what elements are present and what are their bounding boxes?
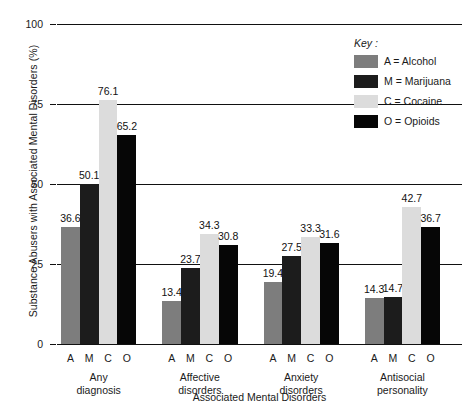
bar-value-label: 30.8 (213, 231, 244, 242)
bar-value-label: 42.7 (396, 193, 427, 204)
y-tick-label-50: 50 (9, 179, 43, 190)
legend-swatch-icon (354, 55, 378, 68)
legend-swatch-icon (354, 115, 378, 128)
x-tick-letter-o: O (113, 353, 140, 364)
bar (282, 256, 301, 344)
y-tick-label-25: 25 (9, 259, 43, 270)
x-tick-letter-o: O (215, 353, 242, 364)
x-group-label-line: Anxiety (244, 371, 359, 384)
bar (384, 297, 403, 344)
bar (99, 100, 118, 344)
y-tick-label-75: 75 (9, 99, 43, 110)
bar-value-label: 36.7 (415, 213, 446, 224)
bar (162, 301, 181, 344)
bar (301, 237, 320, 344)
legend-item: C = Cocaine (354, 93, 466, 111)
bar-value-label: 34.3 (194, 220, 225, 231)
bar (365, 298, 384, 344)
legend-title: Key : (354, 38, 466, 49)
y-tick-mark-100 (50, 24, 56, 25)
legend-label: M = Marijuana (384, 76, 451, 87)
legend-swatch-icon (354, 75, 378, 88)
bar (264, 282, 283, 344)
legend-item: M = Marijuana (354, 73, 466, 91)
x-group-label-line: Affective (142, 371, 257, 384)
gridline-100 (57, 24, 462, 25)
y-tick-mark-0 (50, 344, 56, 345)
bar (61, 227, 80, 344)
legend-swatch-icon (354, 95, 378, 108)
bar-value-label: 31.6 (314, 229, 345, 240)
bar-chart: Substance Abusers with Associated Mental… (0, 0, 468, 417)
bar (117, 135, 136, 344)
x-axis-title: Associated Mental Disorders (57, 391, 462, 403)
bar-value-label: 65.2 (111, 121, 142, 132)
y-tick-mark-25 (50, 264, 56, 265)
gridline-0 (57, 344, 462, 345)
bar (200, 234, 219, 344)
bar (402, 207, 421, 344)
x-group-label-line: Antisocial (345, 371, 460, 384)
bar-value-label: 76.1 (93, 86, 124, 97)
y-tick-label-100: 100 (9, 19, 43, 30)
bar (219, 245, 238, 344)
y-tick-mark-75 (50, 104, 56, 105)
bar (320, 243, 339, 344)
legend-label: C = Cocaine (384, 96, 442, 107)
x-group-label-line: Any (41, 371, 156, 384)
bar (181, 268, 200, 344)
legend-label: O = Opioids (384, 116, 440, 127)
y-tick-mark-50 (50, 184, 56, 185)
bar (80, 184, 99, 344)
legend-item: A = Alcohol (354, 53, 466, 71)
x-tick-letter-o: O (316, 353, 343, 364)
x-tick-letter-o: O (417, 353, 444, 364)
legend-label: A = Alcohol (384, 56, 436, 67)
legend: Key : A = AlcoholM = MarijuanaC = Cocain… (354, 38, 466, 133)
legend-item: O = Opioids (354, 113, 466, 131)
y-tick-label-0: 0 (9, 339, 43, 350)
bar (421, 227, 440, 344)
